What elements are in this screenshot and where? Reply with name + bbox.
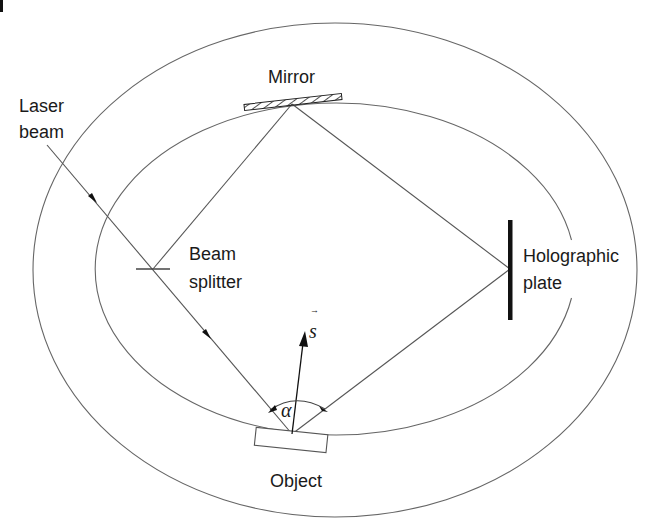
ray-mirror-to-plate bbox=[292, 104, 510, 269]
alpha-arc bbox=[270, 401, 325, 410]
holographic-plate bbox=[508, 220, 513, 320]
label-object: Object bbox=[270, 468, 322, 494]
laser-beam-ray bbox=[47, 145, 292, 434]
label-holographic-plate-line1: Holographic bbox=[523, 243, 619, 269]
s-vector-arrowhead-icon bbox=[299, 331, 308, 347]
label-alpha: α bbox=[281, 397, 292, 423]
object-block bbox=[254, 427, 327, 452]
label-beam-splitter-line1: Beam bbox=[189, 241, 236, 267]
label-mirror: Mirror bbox=[268, 64, 315, 90]
mirror bbox=[244, 94, 342, 111]
label-s-vector: s bbox=[309, 318, 317, 344]
label-beam-splitter-line2: splitter bbox=[189, 269, 242, 295]
label-holographic-plate-line2: plate bbox=[523, 270, 562, 296]
s-vector-accent: → bbox=[310, 305, 319, 315]
s-vector bbox=[292, 343, 303, 434]
label-laser-beam-line2: beam bbox=[19, 119, 64, 145]
laser-arrowhead-2-icon bbox=[202, 329, 211, 339]
label-laser-beam-line1: Laser bbox=[19, 93, 64, 119]
